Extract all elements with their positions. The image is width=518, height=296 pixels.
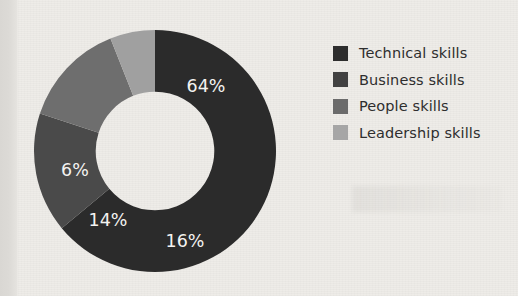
donut-slice-label: 14% [89, 210, 128, 230]
legend-item-label: Leadership skills [359, 125, 481, 141]
legend-item[interactable]: Business skills [333, 68, 513, 92]
legend-item-label: Technical skills [359, 45, 467, 61]
legend-item-label: People skills [359, 98, 449, 114]
legend-swatch-icon [333, 125, 348, 140]
legend-swatch-icon [333, 46, 348, 61]
legend-swatch-icon [333, 99, 348, 114]
legend-swatch-icon [333, 72, 348, 87]
donut-slice-label: 64% [187, 76, 226, 96]
legend-item[interactable]: Leadership skills [333, 121, 513, 145]
legend-item[interactable]: Technical skills [333, 41, 513, 65]
donut-slice-group [34, 30, 276, 272]
bleed-through-smudge [352, 186, 502, 212]
donut-slice-label: 6% [61, 160, 89, 180]
legend-item-label: Business skills [359, 72, 465, 88]
chart-page: 64%16%14%6% Technical skillsBusiness ski… [0, 0, 518, 296]
donut-slice-label: 16% [166, 231, 205, 251]
legend-item[interactable]: People skills [333, 94, 513, 118]
donut-chart-svg: 64%16%14%6% [33, 29, 277, 273]
chart-legend: Technical skillsBusiness skillsPeople sk… [333, 41, 513, 147]
donut-chart: 64%16%14%6% [0, 0, 310, 296]
